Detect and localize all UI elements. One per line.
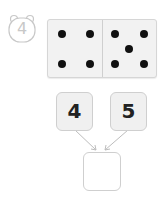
answer-input-box[interactable] — [83, 152, 121, 191]
addend-box-left: 4 — [56, 92, 93, 131]
addend-box-right: 5 — [110, 92, 147, 131]
